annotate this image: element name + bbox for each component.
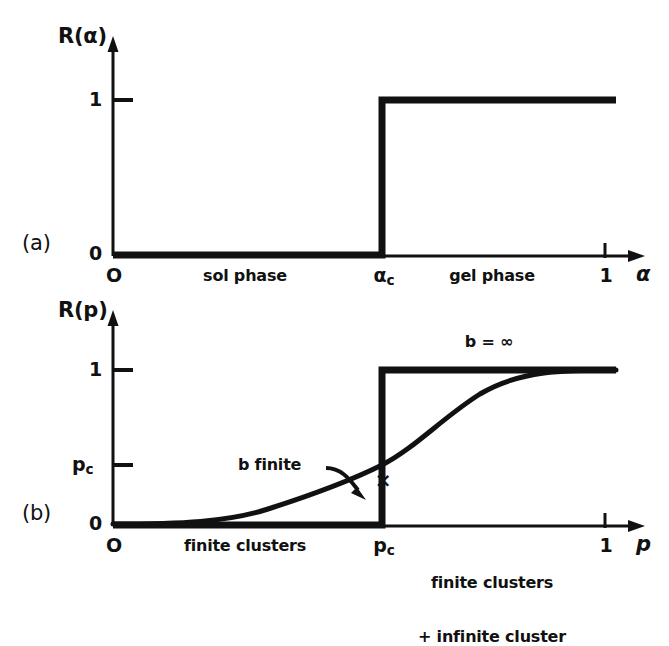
y-axis-label-b: R(p) [58, 300, 108, 321]
x-origin-label-b: O [106, 536, 122, 555]
y-tick-label-1-b: 1 [89, 360, 102, 379]
y-axis-b [108, 310, 119, 526]
pc-y-base: p [72, 453, 85, 475]
y-axis-a [108, 36, 119, 256]
panel-label-a: (a) [22, 233, 51, 254]
panel-label-b: (b) [22, 503, 51, 524]
step-curve-b-infinite [113, 370, 616, 525]
pc-y-subscript: c [85, 461, 93, 477]
alpha-c-subscript: c [386, 272, 394, 288]
panel-b: (b) R(p) 1 pc 0 O pc 1 p b = ∞ b finite … [0, 290, 669, 602]
y-tick-label-pc-b: pc [72, 455, 94, 477]
pc-x-base: p [373, 534, 386, 556]
y-tick-label-1-a: 1 [89, 90, 102, 109]
b-infinite-label: b = ∞ [465, 334, 513, 350]
region-label-line-2: + infinite cluster [418, 628, 566, 646]
panel-a: (a) R(α) 1 0 O αc 1 α sol phase gel phas… [0, 0, 669, 300]
panel-b-plot [0, 290, 669, 602]
region-label-line-1: finite clusters [418, 574, 566, 592]
x-tick-label-1-a: 1 [599, 266, 612, 285]
region-label-finite-clusters-left: finite clusters [184, 538, 306, 554]
y-axis-label-a: R(α) [58, 26, 107, 47]
region-label-sol-phase: sol phase [203, 268, 287, 284]
step-curve-a [113, 100, 616, 255]
x-tick-label-1-b: 1 [599, 536, 612, 555]
x-tick-label-pc: pc [373, 536, 395, 558]
y-tick-label-0-a: 0 [89, 244, 102, 263]
crossing-marker: × [375, 470, 392, 490]
x-axis-label-b: p [636, 534, 651, 555]
pc-x-subscript: c [387, 542, 395, 558]
x-tick-label-alphac: αc [374, 266, 395, 288]
x-axis-label-a: α [636, 264, 650, 285]
b-finite-label: b finite [238, 457, 301, 473]
alpha-c-base: α [374, 264, 387, 286]
region-label-gel-phase: gel phase [449, 268, 535, 284]
x-origin-label-a: O [106, 266, 122, 285]
sigmoid-curve-b-finite [113, 370, 616, 524]
region-label-finite-infinite-clusters: finite clusters + infinite cluster [418, 538, 566, 646]
y-tick-label-0-b: 0 [89, 514, 102, 533]
